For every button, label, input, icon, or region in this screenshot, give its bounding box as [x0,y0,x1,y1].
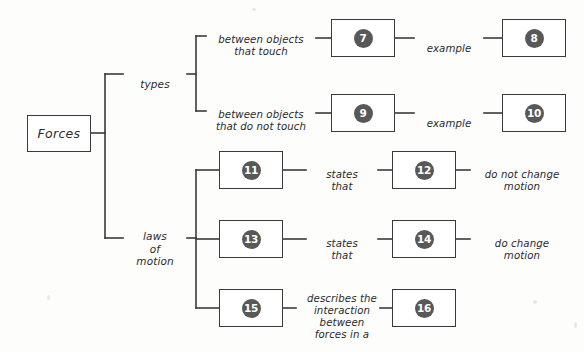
scan-speck [574,322,577,328]
answer-box-14[interactable]: 14 [392,220,456,258]
link-label-example-1: example [409,31,489,55]
link-label-states-that-1: states that [306,157,378,193]
root-node-forces[interactable]: Forces [27,115,91,152]
link-label-between-objects-that-touch: between objects that touch [199,22,323,58]
answer-box-10[interactable]: 10 [502,94,566,132]
answer-box-15[interactable]: 15 [219,289,283,327]
answer-badge-10: 10 [525,104,544,123]
branch-label-types: types [123,66,187,91]
concept-map-canvas: Forces types laws of motion between obje… [0,0,584,352]
answer-badge-9: 9 [354,104,373,123]
answer-box-8[interactable]: 8 [502,19,566,57]
link-label-example-2: example [409,106,489,130]
link-label-between-objects-that-do-not-touch: between objects that do not touch [199,97,323,133]
link-label-do-not-change-motion: do not change motion [470,157,574,193]
answer-badge-8: 8 [525,29,544,48]
answer-badge-11: 11 [242,161,261,180]
link-label-do-change-motion: do change motion [470,226,574,262]
answer-box-12[interactable]: 12 [392,151,456,189]
answer-box-9[interactable]: 9 [331,94,395,132]
answer-box-16[interactable]: 16 [392,289,456,327]
answer-badge-16: 16 [415,299,434,318]
scan-speck [252,8,256,11]
answer-box-11[interactable]: 11 [219,151,283,189]
link-label-describes-the-interaction: describes the interaction between forces… [294,281,390,341]
answer-badge-13: 13 [242,230,261,249]
answer-box-7[interactable]: 7 [331,19,395,57]
answer-badge-15: 15 [242,299,261,318]
root-node-label: Forces [38,126,81,141]
answer-badge-12: 12 [415,161,434,180]
scan-speck [47,295,50,300]
answer-badge-14: 14 [415,230,434,249]
link-label-states-that-2: states that [306,226,378,262]
answer-box-13[interactable]: 13 [219,220,283,258]
scan-speck [533,300,537,304]
branch-label-laws-of-motion: laws of motion [123,218,187,268]
answer-badge-7: 7 [354,29,373,48]
